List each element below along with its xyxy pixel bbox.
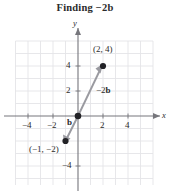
point-label-neg1-neg2: (−1, −2) — [29, 144, 59, 154]
x-axis-label: x — [162, 110, 166, 120]
vector-label-minus-2b-suffix: b — [106, 85, 111, 95]
x-tick-label-4: 4 — [125, 120, 130, 130]
x-tick-label-2: 2 — [100, 120, 105, 130]
y-tick-label-neg4: −4 — [62, 160, 72, 170]
x-tick-label-neg2: −2 — [47, 120, 57, 130]
figure-container: Finding −2b — [0, 0, 170, 193]
y-axis-arrowhead — [75, 28, 81, 35]
data-point-origin — [75, 113, 82, 120]
x-axis-arrowhead — [153, 113, 160, 119]
y-tick-label-4: 4 — [66, 60, 71, 70]
vector-label-b: b — [67, 117, 72, 127]
y-axis-label: y — [73, 18, 77, 28]
x-tick-label-neg4: −4 — [22, 120, 32, 130]
vector-label-minus-2b-prefix: −2 — [96, 85, 106, 95]
y-tick-label-2: 2 — [66, 85, 71, 95]
data-point-neg1-neg2 — [62, 138, 68, 144]
point-label-2-4: (2, 4) — [93, 44, 113, 54]
data-point-2-4 — [100, 63, 106, 69]
grid-lines — [16, 41, 154, 185]
vector-label-minus-2b: −2b — [96, 85, 111, 95]
coordinate-plane — [0, 0, 170, 193]
